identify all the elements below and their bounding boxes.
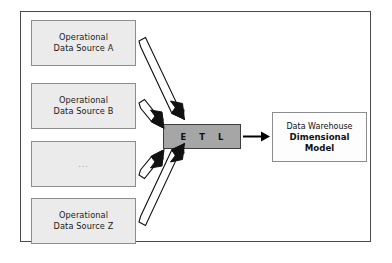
source-box-b-line1: Operational bbox=[59, 95, 108, 106]
dimensional-label: Dimensional bbox=[290, 132, 350, 143]
source-box-a: Operational Data Source A bbox=[31, 20, 136, 66]
data-warehouse-label: Data Warehouse bbox=[286, 121, 352, 132]
etl-letter-l: L bbox=[218, 132, 223, 142]
model-label: Model bbox=[305, 143, 334, 154]
etl-letter-e: E bbox=[181, 132, 187, 142]
etl-letter-t: T bbox=[199, 132, 205, 142]
source-box-a-line1: Operational bbox=[59, 32, 108, 43]
source-box-a-line2: Data Source A bbox=[54, 43, 114, 54]
source-box-ellipsis-label: ... bbox=[78, 159, 89, 170]
source-box-z-line2: Data Source Z bbox=[54, 221, 114, 232]
etl-process-box: E T L bbox=[163, 124, 241, 149]
diagram-canvas: Operational Data Source A Operational Da… bbox=[0, 0, 392, 263]
source-box-z: Operational Data Source Z bbox=[31, 198, 136, 244]
data-warehouse-box: Data Warehouse Dimensional Model bbox=[272, 112, 367, 162]
source-box-b: Operational Data Source B bbox=[31, 83, 136, 129]
source-box-b-line2: Data Source B bbox=[54, 106, 114, 117]
source-box-ellipsis: ... bbox=[31, 141, 136, 187]
source-box-z-line1: Operational bbox=[59, 210, 108, 221]
